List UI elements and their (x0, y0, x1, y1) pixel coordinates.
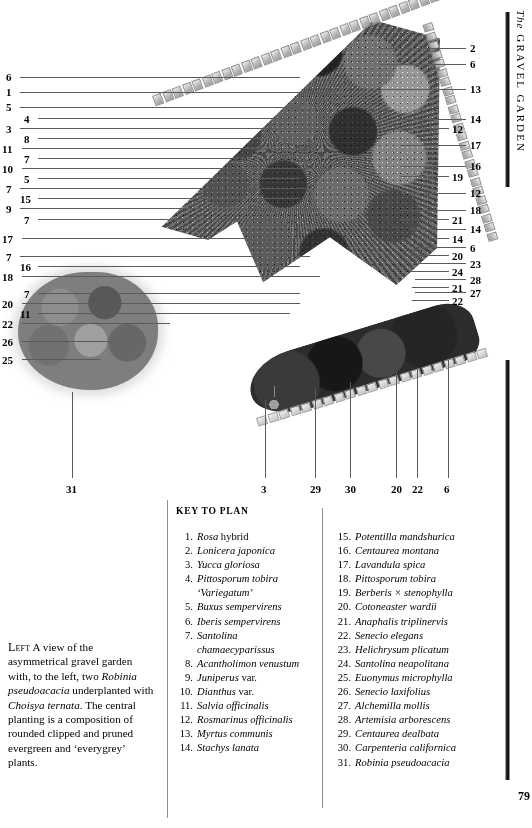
key-item-number: 15. (334, 530, 351, 544)
caption-species-2: Choisya ternata (8, 699, 80, 711)
key-item-number: 8. (176, 657, 193, 671)
leader-line (38, 138, 310, 139)
leader-line (20, 92, 330, 93)
leader-line (22, 148, 320, 149)
key-item-name: Helichrysum plicatum (355, 643, 449, 657)
kerb-stone (311, 398, 323, 410)
key-item-name: Robinia pseudoacacia (355, 756, 449, 770)
key-item-species: Salvia officinalis (197, 700, 269, 711)
leader-line (22, 238, 300, 239)
key-item: 2.Lonicera japonica (176, 544, 310, 558)
key-item-number: 11. (176, 699, 193, 713)
key-item: 1.Rosa hybrid (176, 530, 310, 544)
key-item-name: Senecio elegans (355, 629, 423, 643)
key-item-species: Rosa (197, 531, 218, 542)
key-item-number: 25. (334, 671, 351, 685)
key-item: 3.Yucca gloriosa (176, 558, 310, 572)
plan-label-left: 7 (24, 215, 30, 226)
plan-label-left: 16 (20, 262, 31, 273)
leader-line (38, 118, 300, 119)
key-item-name: Santolina (197, 629, 238, 643)
leader-line (22, 341, 110, 342)
kerb-stone (421, 365, 433, 377)
key-item-species: Potentilla mandshurica (355, 531, 455, 542)
plan-label-right: 6 (470, 59, 476, 70)
key-item-name: Acantholimon venustum (197, 657, 299, 671)
plan-label-right: 6 (470, 243, 476, 254)
key-item-name: Artemisia arborescens (355, 713, 450, 727)
key-item: 30.Carpenteria californica (334, 741, 516, 755)
key-item-species: Robinia pseudoacacia (355, 757, 449, 768)
bed-left-texture (18, 272, 158, 390)
key-item-number: 12. (176, 713, 193, 727)
plan-label-right: 14 (452, 234, 463, 245)
leader-line (400, 210, 466, 211)
running-head-the: The (515, 10, 527, 30)
leader-line (396, 372, 397, 478)
plan-label-right: 24 (452, 267, 463, 278)
key-item-number: 24. (334, 657, 351, 671)
plan-label-right: 12 (452, 124, 463, 135)
key-item-qualifier: var. (236, 686, 254, 697)
plan-label-left: 20 (2, 299, 13, 310)
margin-rule-bottom (505, 360, 510, 780)
leader-line (380, 64, 466, 65)
key-item-species: Alchemilla mollis (355, 700, 429, 711)
plan-label-right: 16 (470, 161, 481, 172)
key-item-name: Berberis × stenophylla (355, 586, 453, 600)
key-item-name: Centaurea montana (355, 544, 439, 558)
key-item: 25.Euonymus microphylla (334, 671, 516, 685)
key-item-species: Rosmarinus officinalis (197, 714, 293, 725)
key-item-species: Iberis sempervirens (197, 616, 280, 627)
leader-line (20, 208, 320, 209)
key-list-right: 15.Potentilla mandshurica16.Centaurea mo… (334, 530, 516, 770)
plan-label-bottom: 29 (310, 484, 321, 495)
leader-line (400, 193, 466, 194)
key-item-species: Stachys lanata (197, 742, 259, 753)
leader-line (22, 323, 170, 324)
plan-label-left: 8 (24, 134, 30, 145)
kerb-stone (366, 381, 378, 393)
plan-label-left: 5 (6, 102, 12, 113)
key-item-number: 14. (176, 741, 193, 755)
plan-label-right: 19 (452, 172, 463, 183)
key-item: 14.Stachys lanata (176, 741, 310, 755)
key-item-number: 4. (176, 572, 193, 586)
leader-line (38, 198, 300, 199)
plan-label-right: 22 (452, 296, 463, 307)
leader-line (417, 368, 418, 478)
key-item-continuation: chamaecyparissus (176, 643, 310, 657)
key-heading: KEY TO PLAN (176, 505, 516, 516)
key-item: 15.Potentilla mandshurica (334, 530, 516, 544)
leader-line (410, 229, 466, 230)
key-item-number: 16. (334, 544, 351, 558)
plan-label-right: 14 (470, 114, 481, 125)
leader-line (380, 89, 466, 90)
leader-line (350, 382, 351, 478)
key-item-number: 17. (334, 558, 351, 572)
leader-line (38, 293, 300, 294)
key-item: 22.Senecio elegans (334, 629, 516, 643)
key-item-number: 7. (176, 629, 193, 643)
plan-label-left: 7 (6, 252, 12, 263)
key-item-name: Euonymus microphylla (355, 671, 453, 685)
key-item-number: 10. (176, 685, 193, 699)
leader-line (412, 287, 449, 288)
key-item-name: Pittosporum tobira (197, 572, 278, 586)
key-item-name: Anaphalis triplinervis (355, 615, 448, 629)
leader-line (38, 266, 300, 267)
kerb-stone (278, 408, 290, 420)
key-item: 8.Acantholimon venustum (176, 657, 310, 671)
kerb-stone (355, 385, 367, 397)
key-item-number: 22. (334, 629, 351, 643)
leader-line (20, 77, 300, 78)
key-item-number: 23. (334, 643, 351, 657)
leader-line (400, 128, 449, 129)
plan-label-left: 25 (2, 355, 13, 366)
key-item-name: Yucca gloriosa (197, 558, 260, 572)
plan-label-right: 27 (470, 288, 481, 299)
plan-label-left: 7 (24, 289, 30, 300)
key-item-species: Carpenteria californica (355, 742, 456, 753)
key-item-name: Alchemilla mollis (355, 699, 429, 713)
key-list-left: 1.Rosa hybrid2.Lonicera japonica3.Yucca … (176, 530, 310, 756)
